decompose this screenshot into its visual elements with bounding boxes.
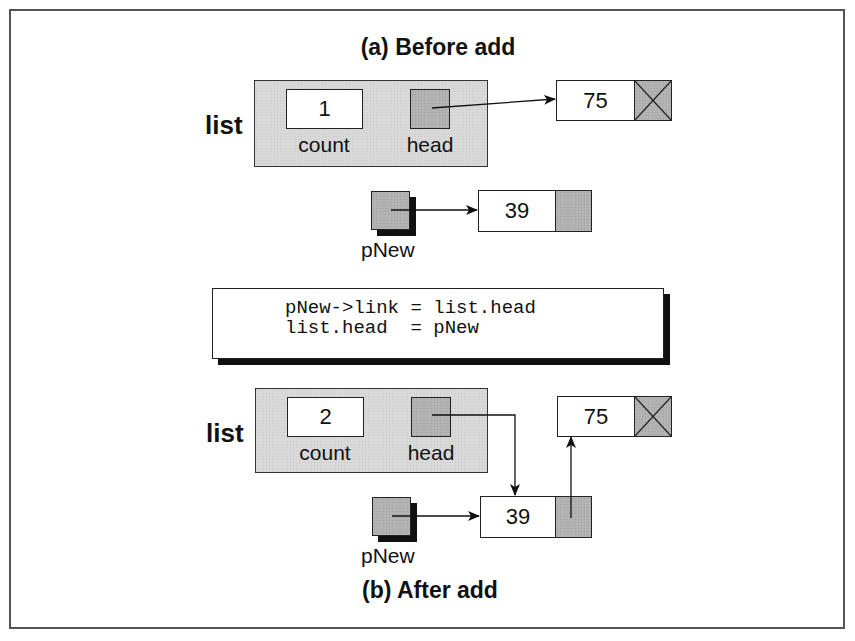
pnew-pointer-before bbox=[371, 191, 410, 230]
null-link-icon bbox=[635, 81, 671, 120]
count-field-after: 2 bbox=[287, 397, 364, 437]
link-field bbox=[556, 191, 591, 231]
count-field-before: 1 bbox=[286, 89, 363, 129]
node-data: 39 bbox=[481, 497, 556, 537]
count-label-before: count bbox=[284, 133, 364, 157]
code-line-1: pNew->link = list.head bbox=[285, 298, 663, 318]
pnew-label-before: pNew bbox=[361, 238, 415, 262]
node-39-after: 39 bbox=[480, 496, 592, 538]
list-label-after: list bbox=[206, 418, 244, 449]
head-pointer-before bbox=[410, 89, 450, 129]
node-data: 39 bbox=[479, 191, 556, 231]
node-39-before: 39 bbox=[478, 190, 592, 232]
node-75-after: 75 bbox=[557, 396, 672, 437]
link-field bbox=[556, 497, 591, 537]
head-pointer-after bbox=[411, 397, 451, 437]
node-data: 75 bbox=[558, 397, 635, 436]
null-link-icon bbox=[635, 397, 671, 436]
title-after-add: (b) After add bbox=[280, 577, 580, 604]
count-label-after: count bbox=[285, 441, 365, 465]
node-75-before: 75 bbox=[556, 80, 672, 121]
head-label-after: head bbox=[391, 441, 471, 465]
pnew-pointer-after bbox=[372, 497, 411, 536]
list-label-before: list bbox=[205, 110, 243, 141]
code-line-2: list.head = pNew bbox=[285, 318, 663, 338]
code-box: pNew->link = list.headlist.head = pNew bbox=[212, 288, 664, 359]
head-label-before: head bbox=[390, 133, 470, 157]
title-before-add: (a) Before add bbox=[288, 34, 588, 61]
node-data: 75 bbox=[557, 81, 635, 120]
pnew-label-after: pNew bbox=[361, 544, 415, 568]
